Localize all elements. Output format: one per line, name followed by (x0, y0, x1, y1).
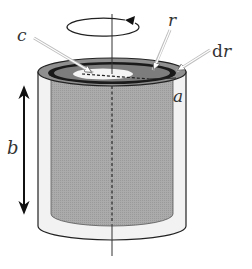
label-a: a (173, 86, 183, 106)
label-dr-d: d (212, 41, 223, 61)
label-b: b (7, 137, 19, 158)
cylinder-diagram: c r dr a b (0, 0, 252, 269)
label-dr-r: r (223, 41, 232, 61)
label-r: r (168, 10, 177, 30)
label-c: c (17, 25, 27, 45)
label-dr: dr (212, 41, 232, 61)
rotation-arrow-icon (67, 16, 139, 36)
